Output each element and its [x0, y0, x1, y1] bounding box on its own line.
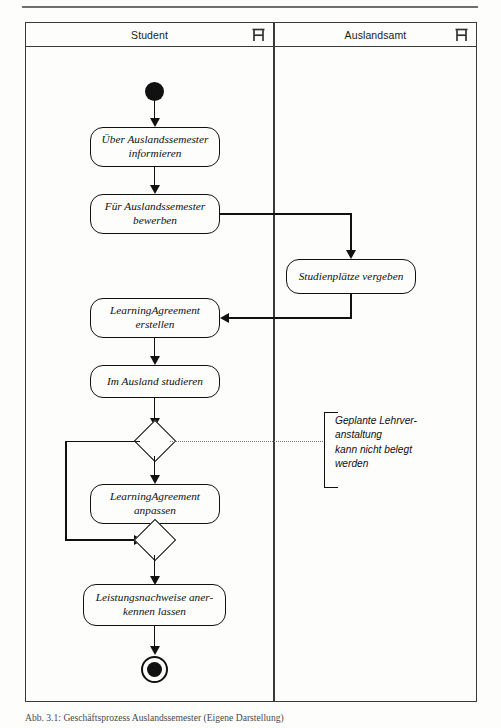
edge-a3-to-a4-horizontal: [225, 317, 352, 319]
page-top-rule: [22, 6, 478, 8]
action-leistungsnachweise-anerkennen-lassen: Leistungsnachweise aner- kennen lassen: [83, 584, 226, 626]
activity-diagram: Student Auslandsamt: [25, 22, 477, 702]
figure-caption: Abb. 3.1: Geschäftsprozess Auslandssemes…: [25, 712, 465, 723]
note-anchor-line: [170, 441, 325, 442]
figure-page: Student Auslandsamt: [0, 0, 501, 728]
action-label: LearningAgreement anpassen: [110, 490, 200, 518]
arrowhead-d1-to-a6: [150, 475, 160, 484]
arrowhead-a2-to-a3: [346, 250, 356, 259]
action-im-ausland-studieren: Im Ausland studieren: [90, 365, 220, 398]
arrowhead-a3-to-a4: [220, 313, 229, 323]
action-label: Studienplätze vergeben: [299, 270, 404, 284]
edge-a2-to-a3-vertical: [350, 213, 352, 254]
edge-d1-loopback-top: [65, 441, 140, 443]
action-ueber-auslandssemester-informieren: Über Auslandssemester informieren: [90, 127, 220, 167]
swimlane-title-auslandsamt: Auslandsamt: [345, 29, 407, 41]
edge-a3-to-a4-vertical: [350, 294, 352, 319]
edge-d1-loopback-bottom: [65, 539, 139, 541]
swimlane-header-student: Student: [26, 23, 273, 47]
swimlane-header-auslandsamt: Auslandsamt: [275, 23, 476, 47]
final-node: [141, 656, 168, 683]
action-studienplaetze-vergeben: Studienplätze vergeben: [286, 259, 416, 294]
swimlane-actor-icon-student: [251, 27, 266, 43]
action-label: Im Ausland studieren: [107, 375, 203, 389]
action-label: LearningAgreement erstellen: [110, 304, 200, 332]
action-learningagreement-erstellen: LearningAgreement erstellen: [90, 298, 220, 338]
arrowhead-a1-to-a2: [150, 185, 160, 194]
action-fuer-auslandssemester-bewerben: Für Auslandssemester bewerben: [90, 194, 220, 234]
final-node-core: [147, 662, 162, 677]
swimlane-title-student: Student: [131, 29, 168, 41]
arrowhead-a4-to-a5: [150, 356, 160, 365]
edge-a2-to-a3-horizontal: [220, 213, 351, 215]
note-text: Geplante Lehrver- anstaltung kann nicht …: [328, 414, 455, 472]
swimlane-auslandsamt: Auslandsamt: [274, 22, 477, 702]
arrowhead-initial-to-a1: [150, 118, 160, 127]
action-label: Leistungsnachweise aner- kennen lassen: [96, 591, 213, 619]
initial-node: [145, 82, 164, 101]
arrowhead-a7-to-final: [150, 646, 160, 655]
swimlane-actor-icon-auslandsamt: [454, 27, 469, 43]
edge-d1-loopback-left: [65, 441, 67, 541]
action-label: Für Auslandssemester bewerben: [105, 200, 206, 228]
action-label: Über Auslandssemester informieren: [102, 133, 209, 161]
